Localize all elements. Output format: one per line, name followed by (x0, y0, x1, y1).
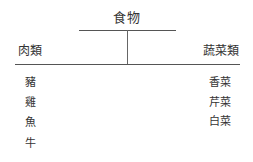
list-item: 白菜 (209, 116, 231, 127)
list-item: 雞 (25, 97, 36, 108)
root-connector-line (127, 30, 128, 64)
list-item: 香菜 (209, 77, 231, 88)
category-vegetables-label: 蔬菜類 (203, 45, 239, 57)
list-item: 芹菜 (209, 97, 231, 108)
category-meat-label: 肉類 (18, 45, 42, 57)
list-item: 魚 (25, 117, 36, 128)
list-item: 牛 (25, 138, 36, 149)
root-node-label: 食物 (113, 11, 141, 24)
category-bar-line (15, 64, 240, 65)
list-item: 豬 (25, 77, 36, 88)
